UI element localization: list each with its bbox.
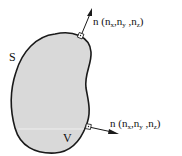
lower-normal-label: n (nx,ny ,nz) [110,118,160,129]
surface-label-s: S [9,51,16,63]
upper-normal-label: n (nx,ny ,nz) [93,16,143,27]
volume-region [11,33,91,153]
upper-normal-arrow [77,8,92,39]
diagram-canvas [0,0,182,156]
paren-close: ) [140,15,144,27]
paren-close: ) [157,117,161,129]
volume-label-v: V [63,132,72,144]
